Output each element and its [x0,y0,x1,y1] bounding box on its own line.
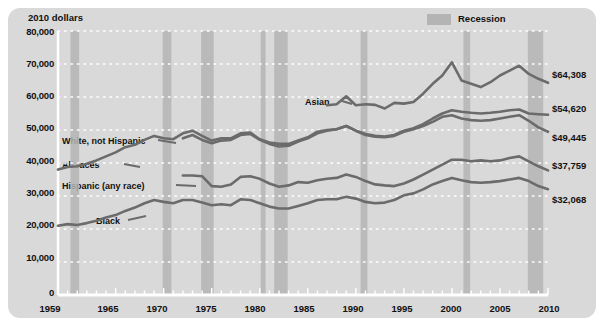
series-line-asian [327,62,548,108]
series-label-leader [176,185,196,186]
chart-figure: 2010 dollars Recession 80,000 70,000 60,… [0,0,604,333]
chart-plot-area [0,0,604,333]
series-label-leader [128,216,146,220]
series-label-leader [124,164,140,167]
